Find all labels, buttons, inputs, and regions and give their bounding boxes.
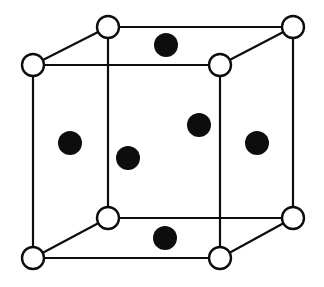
corner-back-bottom-left [97, 207, 119, 229]
atom-bottom-face [153, 226, 177, 250]
atom-top-face [154, 33, 178, 57]
atom-left-face [58, 131, 82, 155]
corner-front-bottom-right [209, 247, 231, 269]
atom-front-face [116, 146, 140, 170]
corner-back-top-right [282, 16, 304, 38]
corner-front-top-right [209, 54, 231, 76]
atom-right-face [245, 131, 269, 155]
unit-cell-drawing [0, 0, 324, 287]
corner-front-bottom-left [22, 247, 44, 269]
crystal-unit-cell-figure [0, 0, 324, 287]
corner-front-top-left [22, 54, 44, 76]
corner-back-top-left [97, 16, 119, 38]
corner-back-bottom-right [282, 207, 304, 229]
atom-back-face [187, 113, 211, 137]
